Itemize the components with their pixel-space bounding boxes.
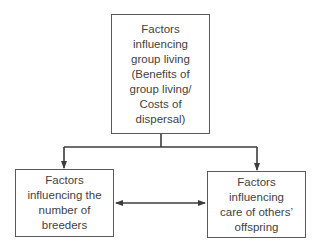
node-number-of-breeders: Factors influencing the number of breede… (15, 169, 114, 237)
node-group-living: Factors influencing group living (Benefi… (111, 14, 210, 134)
node-group-living-label: Factors influencing group living (Benefi… (129, 22, 191, 127)
node-number-of-breeders-label: Factors influencing the number of breede… (27, 173, 101, 233)
node-care-of-offspring: Factors influencing care of others’ offs… (207, 171, 306, 238)
node-care-of-offspring-label: Factors influencing care of others’ offs… (220, 175, 293, 235)
